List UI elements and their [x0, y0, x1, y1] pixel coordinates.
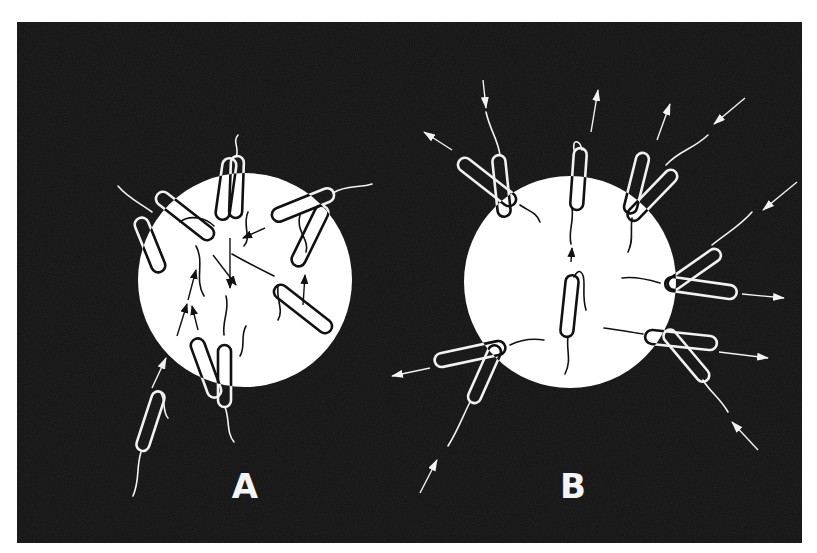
panel-label-b: B: [560, 466, 586, 506]
bacteria-chemotaxis-figure: A: [0, 0, 817, 553]
film-grain: [17, 22, 802, 543]
panel-label-a: A: [232, 466, 259, 506]
